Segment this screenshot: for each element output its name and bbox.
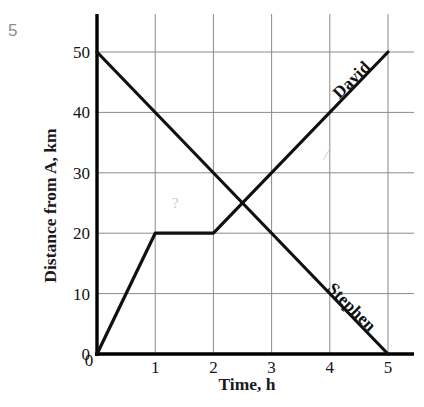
chart-canvas: 5 Distance from A, km Time, h 0 10 20 30… — [0, 0, 424, 407]
pencil-mark-1: ? — [172, 196, 179, 211]
